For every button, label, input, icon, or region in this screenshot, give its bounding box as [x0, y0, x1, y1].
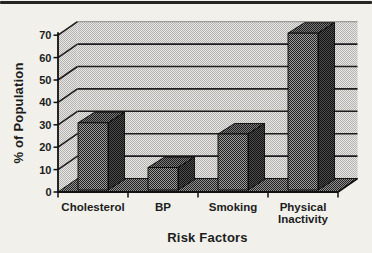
bar-smoking [218, 124, 265, 191]
bar-front-face [218, 134, 248, 190]
bar-physical-inactivity [288, 23, 335, 190]
y-tick-label: 30 [39, 119, 51, 131]
bar-front-face [148, 168, 178, 190]
y-tick-label: 60 [39, 52, 51, 64]
y-axis-title: % of Population [11, 33, 29, 193]
side-wall [58, 22, 78, 192]
figure-page: 010203040506070CholesterolBPSmokingPhysi… [0, 0, 372, 253]
x-category-label: Smoking [209, 201, 258, 213]
bar-side-face [318, 23, 335, 190]
x-category-label: Cholesterol [61, 201, 124, 213]
y-tick-label: 70 [39, 29, 51, 41]
x-category-label: Inactivity [278, 213, 328, 225]
bar-side-face [108, 112, 125, 190]
chart-canvas: 010203040506070CholesterolBPSmokingPhysi… [0, 0, 372, 253]
bar-side-face [248, 124, 265, 191]
y-tick-label: 20 [39, 141, 51, 153]
x-category-label: Physical [280, 201, 327, 213]
x-axis-title: Risk Factors [58, 230, 357, 246]
x-category-label: BP [155, 201, 171, 213]
y-tick-label: 0 [45, 186, 51, 198]
bar-front-face [288, 33, 318, 190]
risk-factors-bar-chart: 010203040506070CholesterolBPSmokingPhysi… [0, 0, 372, 253]
bar-cholesterol [78, 112, 125, 190]
y-tick-label: 10 [39, 164, 51, 176]
bar-front-face [78, 123, 108, 190]
y-tick-label: 40 [39, 96, 51, 108]
y-tick-label: 50 [39, 74, 51, 86]
